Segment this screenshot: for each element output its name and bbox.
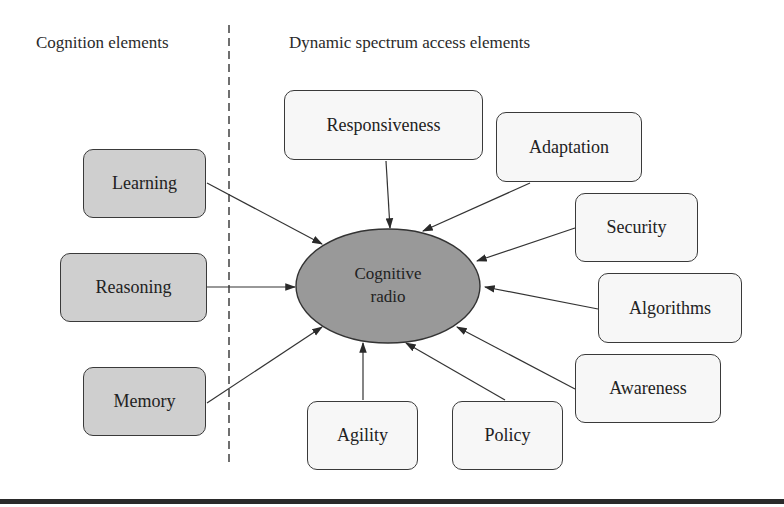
arrow-algorithms [485, 287, 598, 309]
header-dsa-elements: Dynamic spectrum access elements [289, 33, 530, 53]
arrow-responsiveness [386, 161, 390, 228]
node-label: Responsiveness [327, 115, 441, 136]
node-label: Awareness [609, 378, 686, 399]
arrow-memory [207, 327, 322, 403]
node-label: Security [607, 217, 667, 238]
node-cognitive-radio: Cognitive radio [296, 262, 480, 308]
header-cognition-elements: Cognition elements [36, 33, 169, 53]
node-label: Learning [112, 173, 177, 194]
node-memory: Memory [83, 367, 206, 436]
arrow-learning [207, 183, 322, 244]
node-policy: Policy [452, 401, 563, 470]
node-agility: Agility [307, 401, 418, 470]
node-responsiveness: Responsiveness [284, 90, 483, 160]
arrow-security [477, 228, 575, 261]
node-label: Agility [337, 425, 388, 446]
bottom-rule [0, 499, 784, 504]
arrow-policy [406, 343, 505, 400]
node-reasoning: Reasoning [60, 253, 207, 322]
node-label: Memory [114, 391, 176, 412]
node-label: Algorithms [629, 298, 711, 319]
center-label-line2: radio [296, 285, 480, 308]
arrow-adaptation [423, 183, 530, 231]
center-label-line1: Cognitive [296, 262, 480, 285]
node-algorithms: Algorithms [598, 273, 742, 343]
arrow-awareness [457, 327, 575, 389]
node-label: Reasoning [96, 277, 172, 298]
node-label: Policy [484, 425, 530, 446]
node-security: Security [575, 193, 698, 262]
node-learning: Learning [83, 149, 206, 218]
node-awareness: Awareness [575, 354, 721, 423]
node-label: Adaptation [529, 137, 609, 158]
node-adaptation: Adaptation [496, 112, 642, 182]
